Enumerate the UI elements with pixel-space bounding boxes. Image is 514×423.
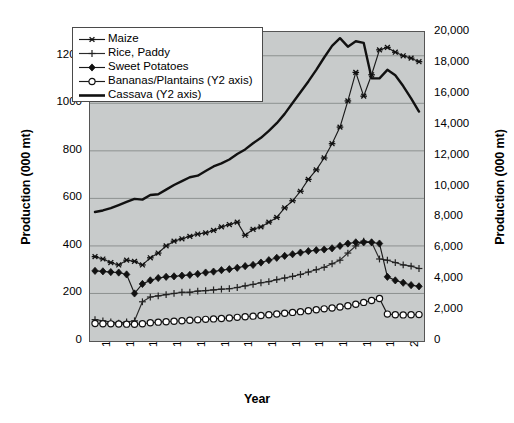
series-bananas-plantains-y2-axis xyxy=(92,295,422,327)
y2-axis-tick-4000: 4,000 xyxy=(434,271,463,283)
legend-label: Maize xyxy=(108,32,139,45)
y2-axis-tick-12000: 12,000 xyxy=(434,148,469,160)
y2-axis-tick-18000: 18,000 xyxy=(434,55,469,67)
y-axis-tick-400: 400 xyxy=(63,238,82,250)
legend-marker-star-icon xyxy=(77,32,107,45)
y-axis-tick-600: 600 xyxy=(63,190,82,202)
legend-marker-plus-icon xyxy=(77,46,107,59)
y-axis-title: Production (000 mt) xyxy=(19,87,33,287)
legend-marker-circle-icon xyxy=(77,74,107,87)
y2-axis-tick-6000: 6,000 xyxy=(434,240,463,252)
legend-label: Sweet Potatoes xyxy=(108,60,189,73)
legend-label: Cassava (Y2 axis) xyxy=(108,88,201,101)
y2-axis-title: Production (000 mt) xyxy=(493,87,507,287)
y2-axis-tick-16000: 16,000 xyxy=(434,86,469,98)
y-axis-tick-800: 800 xyxy=(63,143,82,155)
legend-label: Bananas/Plantains (Y2 axis) xyxy=(108,74,252,87)
legend-label: Rice, Paddy xyxy=(108,46,170,59)
legend-item-cassava-y2-axis[interactable]: Cassava (Y2 axis) xyxy=(77,87,258,101)
series-sweet-potatoes xyxy=(92,239,422,297)
x-axis-title: Year xyxy=(89,392,425,406)
legend-item-maize[interactable]: Maize xyxy=(77,31,258,45)
chart-legend: MaizeRice, PaddySweet PotatoesBananas/Pl… xyxy=(72,27,263,102)
y2-axis-tick-0: 0 xyxy=(434,333,440,345)
y2-axis-tick-8000: 8,000 xyxy=(434,209,463,221)
y-axis-tick-200: 200 xyxy=(63,285,82,297)
chart-container: Production (000 mt) Production (000 mt) … xyxy=(0,0,514,423)
y2-axis-tick-14000: 14,000 xyxy=(434,117,469,129)
legend-marker-diamond-icon xyxy=(77,60,107,73)
legend-item-sweet-potatoes[interactable]: Sweet Potatoes xyxy=(77,59,258,73)
legend-item-rice-paddy[interactable]: Rice, Paddy xyxy=(77,45,258,59)
legend-item-bananas-plantains-y2-axis[interactable]: Bananas/Plantains (Y2 axis) xyxy=(77,73,258,87)
legend-marker-none-icon xyxy=(77,88,107,101)
y-axis-tick-0: 0 xyxy=(76,333,82,345)
y2-axis-tick-20000: 20,000 xyxy=(434,24,469,36)
y2-axis-tick-10000: 10,000 xyxy=(434,179,469,191)
y2-axis-tick-2000: 2,000 xyxy=(434,302,463,314)
